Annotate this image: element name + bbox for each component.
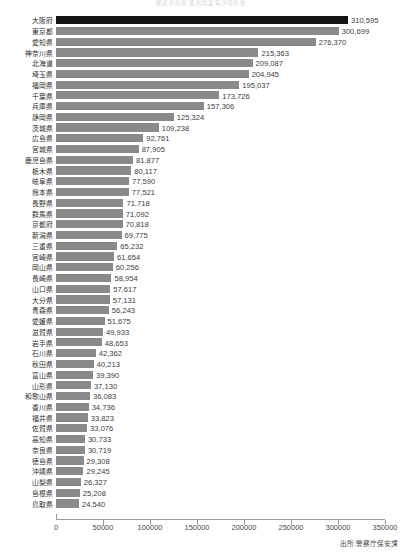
bar[interactable] [56,242,117,250]
bar[interactable] [56,70,249,78]
bar[interactable] [56,102,204,110]
bar-row[interactable]: 山口県57,617 [56,284,385,295]
bar-row[interactable]: 高知県30,733 [56,434,385,445]
bar[interactable] [56,252,114,260]
bar[interactable] [56,306,109,314]
bar-row[interactable]: 広島県92,761 [56,133,385,144]
bar-row[interactable]: 福岡県195,037 [56,79,385,90]
value-label: 56,243 [109,306,135,315]
bar[interactable] [56,59,253,67]
category-label: 富山県 [32,370,53,380]
value-label: 60,256 [113,263,139,272]
bar-row[interactable]: 三重県65,232 [56,241,385,252]
bar-row[interactable]: 沖縄県29,245 [56,466,385,477]
bar-row[interactable]: 京都府70,818 [56,219,385,230]
bar-row[interactable]: 熊本県77,521 [56,187,385,198]
bar[interactable] [56,27,339,35]
bar[interactable] [56,263,113,271]
bar-row[interactable]: 徳島県29,308 [56,455,385,466]
bar-row[interactable]: 宮城県87,905 [56,144,385,155]
bar-row[interactable]: 奈良県30,719 [56,445,385,456]
bar[interactable] [56,231,122,239]
bar-row[interactable]: 秋田県40,213 [56,359,385,370]
bar[interactable] [56,295,110,303]
bar[interactable] [56,209,123,217]
bar-row[interactable]: 宮崎県61,654 [56,251,385,262]
bar[interactable] [56,489,80,497]
bar-row[interactable]: 香川県34,736 [56,402,385,413]
bar[interactable] [56,123,159,131]
bar[interactable] [56,435,85,443]
bar-row[interactable]: 鹿児島県81,877 [56,155,385,166]
bar-row[interactable]: 長崎県58,954 [56,273,385,284]
bar[interactable] [56,91,219,99]
bar-row[interactable]: 福井県33,823 [56,412,385,423]
bar[interactable] [56,328,103,336]
bar[interactable] [56,338,102,346]
bar-row[interactable]: 兵庫県157,306 [56,101,385,112]
bar[interactable] [56,499,79,507]
bar-row[interactable]: 愛知県276,370 [56,36,385,47]
bar[interactable] [56,156,133,164]
bar[interactable] [56,285,110,293]
bar[interactable] [56,81,239,89]
bar[interactable] [56,274,111,282]
category-label: 東京都 [32,26,53,36]
bar[interactable] [56,381,91,389]
bar-row[interactable]: 佐賀県33,076 [56,423,385,434]
bar[interactable] [56,392,90,400]
bar[interactable] [56,16,348,24]
bar-row[interactable]: 青森県56,243 [56,305,385,316]
bar-row[interactable]: 神奈川県215,363 [56,47,385,58]
bar-row[interactable]: 島根県25,208 [56,488,385,499]
bar[interactable] [56,48,258,56]
bar-row[interactable]: 岩手県48,653 [56,337,385,348]
bar[interactable] [56,134,143,142]
bar[interactable] [56,424,87,432]
bar-row[interactable]: 栃木県80,117 [56,165,385,176]
bar[interactable] [56,166,131,174]
bar-row[interactable]: 群馬県71,092 [56,208,385,219]
bar-row[interactable]: 山形県37,130 [56,380,385,391]
bar-row[interactable]: 長野県71,718 [56,198,385,209]
bar-row[interactable]: 静岡県125,324 [56,112,385,123]
bar[interactable] [56,38,316,46]
bar[interactable] [56,403,89,411]
bar[interactable] [56,199,123,207]
bar-row[interactable]: 北海道209,087 [56,58,385,69]
bar-row[interactable]: 岐阜県77,590 [56,176,385,187]
bar[interactable] [56,360,94,368]
bar-row[interactable]: 岡山県60,256 [56,262,385,273]
bar[interactable] [56,220,123,228]
bar[interactable] [56,113,174,121]
bar[interactable] [56,145,139,153]
value-label: 34,736 [89,402,115,411]
bar-row[interactable]: 山梨県26,327 [56,477,385,488]
bar-row[interactable]: 富山県39,390 [56,369,385,380]
bar-row[interactable]: 東京都300,699 [56,26,385,37]
bar-row[interactable]: 石川県42,362 [56,348,385,359]
x-axis-tick-label: 50000 [93,523,114,532]
bar-row[interactable]: 和歌山県36,083 [56,391,385,402]
bar[interactable] [56,413,88,421]
bar-row[interactable]: 新潟県69,775 [56,230,385,241]
bar[interactable] [56,446,85,454]
bar-row[interactable]: 大阪府310,595 [56,15,385,26]
bar[interactable] [56,371,93,379]
bar[interactable] [56,177,129,185]
bar[interactable] [56,478,81,486]
bar-row[interactable]: 千葉県173,726 [56,90,385,101]
bar-row[interactable]: 愛媛県51,675 [56,316,385,327]
bar-row[interactable]: 鳥取県24,540 [56,498,385,509]
bar[interactable] [56,317,105,325]
bar[interactable] [56,188,129,196]
bar[interactable] [56,467,83,475]
bar-row[interactable]: 埼玉県204,945 [56,69,385,80]
bar-row[interactable]: 滋賀県49,933 [56,326,385,337]
bar[interactable] [56,349,96,357]
bar[interactable] [56,456,84,464]
bar-row[interactable]: 大分県57,131 [56,294,385,305]
category-label: 岐阜県 [32,176,53,186]
bar-row[interactable]: 茨城県109,238 [56,122,385,133]
category-label: 茨城県 [32,123,53,133]
